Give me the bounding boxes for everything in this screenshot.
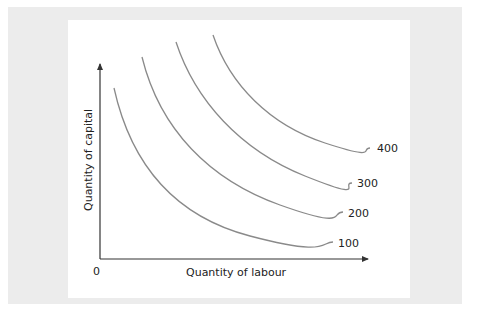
isoquant-100 <box>114 88 333 247</box>
origin-label: 0 <box>93 265 100 278</box>
label-200: 200 <box>348 207 369 220</box>
isoquant-chart: 100 200 300 400 0 Quantity of labour Qua… <box>0 0 478 314</box>
x-axis-title: Quantity of labour <box>186 266 287 279</box>
isoquant-400 <box>213 35 370 153</box>
label-100: 100 <box>338 237 359 250</box>
isoquant-300 <box>176 42 352 190</box>
isoquant-200 <box>142 57 343 218</box>
y-axis-title: Quantity of capital <box>82 109 95 211</box>
label-400: 400 <box>377 142 398 155</box>
label-300: 300 <box>357 177 378 190</box>
